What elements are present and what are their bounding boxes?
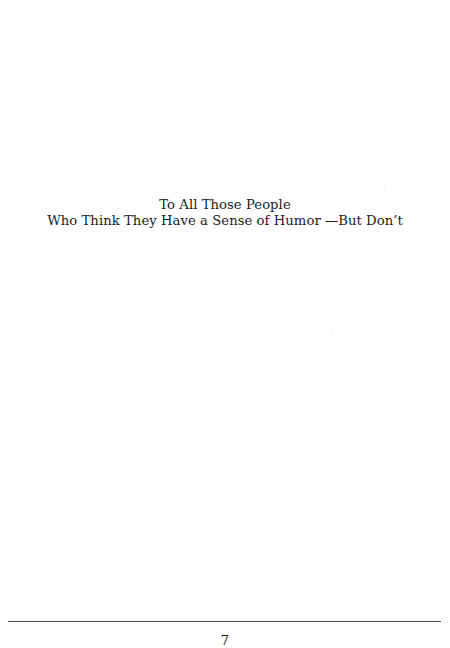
- dedication-line-2: Who Think They Have a Sense of Humor —Bu…: [0, 213, 450, 229]
- scan-artifact: [383, 178, 385, 180]
- footer-rule: [8, 621, 441, 622]
- scan-artifact: [332, 332, 334, 334]
- scan-artifact: [384, 188, 386, 190]
- dedication-block: To All Those People Who Think They Have …: [0, 197, 450, 229]
- page-number: 7: [0, 634, 450, 648]
- dedication-line-1: To All Those People: [0, 197, 450, 213]
